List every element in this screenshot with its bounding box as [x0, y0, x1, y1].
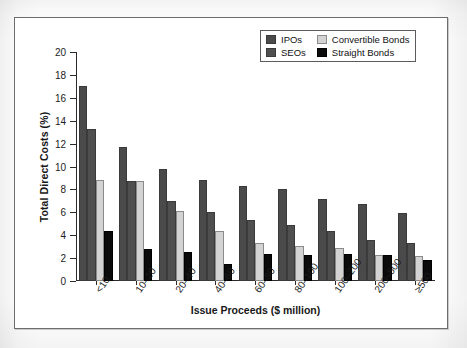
legend-item-label: IPOs: [281, 35, 302, 45]
y-axis-tick-label: 0: [60, 277, 66, 287]
plot-area: 02468101214161820 <1010–2020–4040–6060–8…: [76, 52, 435, 281]
bar-convertible-bonds[interactable]: [96, 180, 104, 281]
y-axis-tick: 10: [70, 167, 76, 168]
chart-legend: IPOsConvertible BondsSEOsStraight Bonds: [260, 30, 416, 62]
y-axis-tick-label: 20: [55, 48, 66, 58]
bar-ipos[interactable]: [239, 186, 247, 281]
y-axis-tick: 18: [70, 75, 76, 76]
y-axis-tick: 4: [70, 235, 76, 236]
bar-ipos[interactable]: [159, 169, 167, 281]
legend-item-label: SEOs: [281, 48, 306, 58]
y-axis-tick-label: 14: [55, 117, 66, 127]
bar-ipos[interactable]: [278, 189, 286, 281]
legend-item[interactable]: IPOs: [266, 35, 306, 45]
y-axis-tick-label: 2: [60, 254, 66, 264]
y-axis-tick: 12: [70, 144, 76, 145]
y-axis-title: Total Direct Costs (%): [37, 52, 51, 281]
y-axis-tick-label: 16: [55, 94, 66, 104]
bar-ipos[interactable]: [79, 86, 87, 281]
legend-swatch-seos: [266, 48, 276, 57]
y-axis-tick: 2: [70, 258, 76, 259]
bar-seos[interactable]: [367, 240, 375, 281]
y-axis-tick-label: 4: [60, 231, 66, 241]
bar-seos[interactable]: [327, 231, 335, 281]
bar-straight-bonds[interactable]: [104, 231, 112, 281]
bar-convertible-bonds[interactable]: [176, 211, 184, 281]
bar-seos[interactable]: [167, 201, 175, 281]
y-axis-tick: 6: [70, 212, 76, 213]
legend-item[interactable]: Straight Bonds: [317, 48, 410, 58]
legend-item[interactable]: SEOs: [266, 48, 306, 58]
y-axis-tick: 14: [70, 121, 76, 122]
bar-seos[interactable]: [407, 243, 415, 281]
legend-swatch-convertible-bonds: [317, 35, 327, 44]
figure-container: Total Direct Costs (%) 02468101214161820…: [0, 0, 467, 348]
legend-swatch-straight-bonds: [317, 48, 327, 57]
y-axis-tick: 0: [70, 281, 76, 282]
y-axis-tick-label: 18: [55, 71, 66, 81]
bar-ipos[interactable]: [318, 199, 326, 281]
bar-group: [278, 52, 312, 281]
bar-convertible-bonds[interactable]: [136, 181, 144, 281]
bar-group: [159, 52, 193, 281]
y-axis-tick-label: 12: [55, 140, 66, 150]
bar-ipos[interactable]: [199, 180, 207, 281]
bar-group: [79, 52, 113, 281]
y-axis-tick: 20: [70, 52, 76, 53]
chart-frame: Total Direct Costs (%) 02468101214161820…: [14, 17, 448, 329]
x-axis-title: Issue Proceeds ($ million): [76, 304, 435, 316]
bar-seos[interactable]: [287, 225, 295, 281]
bar-group: [318, 52, 352, 281]
y-axis-tick-label: 6: [60, 208, 66, 218]
legend-item-label: Convertible Bonds: [332, 35, 410, 45]
legend-swatch-ipos: [266, 35, 276, 44]
bar-group: [239, 52, 273, 281]
bar-seos[interactable]: [87, 129, 95, 281]
legend-item-label: Straight Bonds: [332, 48, 394, 58]
y-axis-title-text: Total Direct Costs (%): [38, 111, 50, 222]
bar-group: [358, 52, 392, 281]
bar-group: [398, 52, 432, 281]
y-axis-tick: 8: [70, 189, 76, 190]
bar-group: [119, 52, 153, 281]
y-axis-tick-label: 10: [55, 163, 66, 173]
bar-seos[interactable]: [247, 220, 255, 281]
bar-ipos[interactable]: [119, 147, 127, 281]
y-axis-tick: 16: [70, 98, 76, 99]
bar-seos[interactable]: [207, 212, 215, 281]
bar-ipos[interactable]: [398, 213, 406, 281]
bar-group: [199, 52, 233, 281]
legend-item[interactable]: Convertible Bonds: [317, 35, 410, 45]
y-axis-tick-label: 8: [60, 185, 66, 195]
bar-ipos[interactable]: [358, 204, 366, 281]
bar-seos[interactable]: [127, 181, 135, 281]
